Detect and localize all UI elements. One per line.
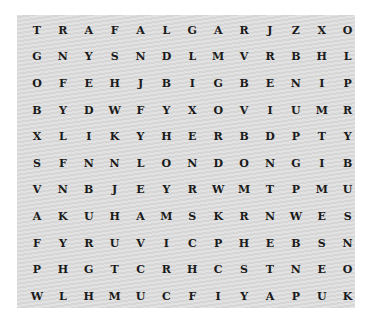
letter-cell[interactable]: W (205, 177, 231, 204)
letter-cell[interactable]: H (179, 256, 205, 283)
letter-cell[interactable]: P (283, 177, 309, 204)
letter-cell[interactable]: C (205, 256, 231, 283)
letter-cell[interactable]: T (309, 123, 335, 150)
letter-cell[interactable]: N (128, 44, 154, 71)
letter-cell[interactable]: P (205, 230, 231, 257)
letter-cell[interactable]: H (309, 44, 335, 71)
letter-cell[interactable]: V (231, 97, 257, 124)
letter-cell[interactable]: N (283, 256, 309, 283)
letter-cell[interactable]: C (128, 256, 154, 283)
letter-cell[interactable]: N (179, 150, 205, 177)
letter-cell[interactable]: J (102, 177, 128, 204)
letter-cell[interactable]: L (128, 150, 154, 177)
letter-cell[interactable]: R (205, 123, 231, 150)
letter-cell[interactable]: G (205, 70, 231, 97)
letter-cell[interactable]: O (24, 70, 50, 97)
letter-cell[interactable]: A (128, 17, 154, 44)
letter-cell[interactable]: X (309, 17, 335, 44)
letter-cell[interactable]: R (231, 203, 257, 230)
letter-cell[interactable]: A (128, 203, 154, 230)
letter-cell[interactable]: D (257, 123, 283, 150)
letter-cell[interactable]: F (179, 283, 205, 310)
letter-cell[interactable]: B (335, 150, 361, 177)
letter-cell[interactable]: O (153, 150, 179, 177)
letter-cell[interactable]: E (257, 70, 283, 97)
letter-cell[interactable]: L (50, 283, 76, 310)
letter-cell[interactable]: N (50, 177, 76, 204)
letter-cell[interactable]: M (205, 44, 231, 71)
letter-cell[interactable]: N (76, 150, 102, 177)
letter-cell[interactable]: R (76, 230, 102, 257)
letter-cell[interactable]: S (231, 256, 257, 283)
letter-cell[interactable]: K (50, 203, 76, 230)
letter-cell[interactable]: V (231, 44, 257, 71)
letter-cell[interactable]: L (153, 17, 179, 44)
letter-cell[interactable]: E (309, 256, 335, 283)
letter-cell[interactable]: V (128, 230, 154, 257)
letter-cell[interactable]: A (76, 17, 102, 44)
letter-cell[interactable]: I (153, 230, 179, 257)
letter-cell[interactable]: W (283, 203, 309, 230)
letter-cell[interactable]: I (205, 283, 231, 310)
letter-cell[interactable]: D (76, 97, 102, 124)
letter-cell[interactable]: H (231, 230, 257, 257)
letter-cell[interactable]: A (257, 283, 283, 310)
letter-cell[interactable]: Y (128, 123, 154, 150)
letter-cell[interactable]: A (205, 17, 231, 44)
letter-cell[interactable]: B (153, 70, 179, 97)
letter-cell[interactable]: B (231, 70, 257, 97)
letter-cell[interactable]: M (309, 97, 335, 124)
letter-cell[interactable]: M (102, 283, 128, 310)
letter-cell[interactable]: S (335, 203, 361, 230)
letter-cell[interactable]: K (205, 203, 231, 230)
letter-cell[interactable]: N (335, 230, 361, 257)
letter-cell[interactable]: O (335, 17, 361, 44)
letter-cell[interactable]: A (24, 203, 50, 230)
letter-cell[interactable]: U (335, 177, 361, 204)
letter-cell[interactable]: H (50, 256, 76, 283)
letter-cell[interactable]: X (179, 97, 205, 124)
letter-cell[interactable]: N (257, 203, 283, 230)
letter-cell[interactable]: Y (153, 177, 179, 204)
letter-cell[interactable]: R (153, 256, 179, 283)
letter-cell[interactable]: I (309, 150, 335, 177)
letter-cell[interactable]: T (257, 256, 283, 283)
letter-cell[interactable]: E (309, 203, 335, 230)
letter-cell[interactable]: G (76, 256, 102, 283)
letter-cell[interactable]: I (257, 97, 283, 124)
letter-cell[interactable]: F (24, 230, 50, 257)
letter-cell[interactable]: E (257, 230, 283, 257)
letter-cell[interactable]: N (283, 70, 309, 97)
letter-cell[interactable]: Y (50, 230, 76, 257)
letter-cell[interactable]: P (283, 123, 309, 150)
letter-cell[interactable]: P (24, 256, 50, 283)
letter-cell[interactable]: I (179, 70, 205, 97)
letter-cell[interactable]: T (24, 17, 50, 44)
letter-cell[interactable]: H (102, 203, 128, 230)
letter-cell[interactable]: Y (153, 97, 179, 124)
letter-cell[interactable]: O (335, 256, 361, 283)
letter-cell[interactable]: Y (231, 283, 257, 310)
letter-cell[interactable]: G (283, 150, 309, 177)
letter-cell[interactable]: U (76, 203, 102, 230)
letter-cell[interactable]: J (128, 70, 154, 97)
letter-cell[interactable]: X (24, 123, 50, 150)
letter-cell[interactable]: U (309, 283, 335, 310)
letter-cell[interactable]: E (179, 123, 205, 150)
letter-cell[interactable]: E (128, 177, 154, 204)
letter-cell[interactable]: L (179, 44, 205, 71)
letter-cell[interactable]: M (231, 177, 257, 204)
letter-cell[interactable]: L (50, 123, 76, 150)
letter-cell[interactable]: H (76, 283, 102, 310)
letter-cell[interactable]: W (24, 283, 50, 310)
letter-cell[interactable]: T (102, 256, 128, 283)
letter-cell[interactable]: B (283, 44, 309, 71)
letter-cell[interactable]: F (50, 70, 76, 97)
letter-cell[interactable]: V (24, 177, 50, 204)
letter-cell[interactable]: U (283, 97, 309, 124)
letter-cell[interactable]: F (128, 97, 154, 124)
letter-cell[interactable]: H (153, 123, 179, 150)
letter-cell[interactable]: P (335, 70, 361, 97)
letter-cell[interactable]: N (50, 44, 76, 71)
letter-cell[interactable]: D (205, 150, 231, 177)
